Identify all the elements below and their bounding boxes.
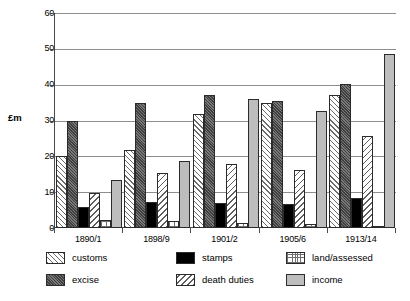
x-tick-mark (259, 228, 260, 233)
x-tick-mark (395, 228, 396, 233)
bar-death-duties-1890-1 (89, 193, 100, 228)
bar-land-assessed-1913-14 (373, 226, 384, 229)
bar-excise-1898-9 (135, 103, 146, 228)
legend-item-stamps[interactable]: stamps (176, 252, 233, 264)
bar-death-duties-1901-2 (226, 164, 237, 228)
bar-chart: £m 0102030405060 1890/11898/91901/21905/… (0, 0, 410, 301)
legend-label: excise (72, 275, 99, 285)
bar-death-duties-1898-9 (157, 173, 168, 228)
bar-land-assessed-1905-6 (305, 224, 316, 228)
bar-excise-1905-6 (272, 101, 283, 228)
x-tick-mark (122, 228, 123, 233)
y-tick-mark (50, 192, 54, 193)
legend-item-customs[interactable]: customs (46, 252, 107, 264)
bar-stamps-1890-1 (78, 207, 89, 228)
x-tick-label: 1913/14 (331, 234, 391, 244)
legend-swatch-income-icon (286, 274, 305, 286)
bar-excise-1901-2 (204, 95, 215, 228)
y-axis-title: £m (8, 112, 22, 123)
y-tick-mark (50, 13, 54, 14)
bar-death-duties-1905-6 (294, 170, 305, 228)
legend-label: stamps (202, 253, 233, 263)
bar-customs-1901-2 (193, 114, 204, 228)
bar-customs-1905-6 (261, 103, 272, 228)
legend-label: income (312, 275, 343, 285)
legend-item-income[interactable]: income (286, 274, 343, 286)
legend-swatch-excise-icon (46, 274, 65, 286)
bar-stamps-1898-9 (146, 202, 157, 228)
chart-legend: customsstampsland/assessedexcisedeath du… (46, 252, 396, 298)
x-tick-label: 1901/2 (195, 234, 255, 244)
legend-swatch-land-assessed-icon (286, 252, 305, 264)
bar-income-1913-14 (384, 54, 395, 229)
bar-income-1905-6 (316, 111, 327, 228)
legend-item-death-duties[interactable]: death duties (176, 274, 254, 286)
x-tick-label: 1905/6 (263, 234, 323, 244)
y-tick-mark (50, 121, 54, 122)
bar-death-duties-1913-14 (362, 136, 373, 228)
y-tick-mark (50, 156, 54, 157)
bar-stamps-1913-14 (351, 198, 362, 228)
x-tick-mark (54, 228, 55, 233)
legend-swatch-customs-icon (46, 252, 65, 264)
legend-item-excise[interactable]: excise (46, 274, 99, 286)
y-tick-mark (50, 85, 54, 86)
legend-item-land-assessed[interactable]: land/assessed (286, 252, 373, 264)
y-tick-mark (50, 49, 54, 50)
legend-label: customs (72, 253, 107, 263)
bar-stamps-1905-6 (283, 204, 294, 228)
legend-label: land/assessed (312, 253, 373, 263)
bar-income-1898-9 (179, 161, 190, 228)
bar-land-assessed-1890-1 (100, 220, 111, 228)
bar-customs-1890-1 (56, 156, 67, 228)
gridline (55, 13, 396, 14)
legend-swatch-stamps-icon (176, 252, 195, 264)
x-tick-label: 1898/9 (126, 234, 186, 244)
bar-land-assessed-1898-9 (168, 221, 179, 228)
bar-excise-1913-14 (340, 84, 351, 228)
bar-income-1890-1 (111, 180, 122, 228)
bar-excise-1890-1 (67, 121, 78, 229)
x-tick-mark (190, 228, 191, 233)
bar-land-assessed-1901-2 (237, 223, 248, 228)
legend-label: death duties (202, 275, 254, 285)
bar-customs-1913-14 (329, 95, 340, 228)
gridline (55, 49, 396, 50)
bar-income-1901-2 (248, 99, 259, 228)
bar-customs-1898-9 (124, 150, 135, 228)
x-tick-label: 1890/1 (58, 234, 118, 244)
bar-stamps-1901-2 (215, 203, 226, 228)
legend-swatch-death-duties-icon (176, 274, 195, 286)
x-tick-mark (327, 228, 328, 233)
